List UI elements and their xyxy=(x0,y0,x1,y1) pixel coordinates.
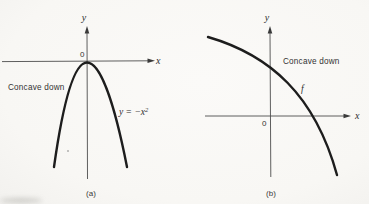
panel-b-y-axis-arrow-icon xyxy=(268,26,273,34)
panel-b-y-axis-label: y xyxy=(264,12,270,23)
panel-a-y-axis xyxy=(87,33,88,180)
panel-b-curve-label-f: f xyxy=(301,84,305,94)
panel-a-x-axis-label: x xyxy=(155,55,161,66)
panel-b-origin-label: 0 xyxy=(262,119,267,128)
panel-b-x-axis-label: x xyxy=(354,110,360,121)
panel-a-y-axis-label: y xyxy=(81,12,87,23)
panel-a-y-axis-arrow-icon xyxy=(85,26,90,34)
scan-speck-artifact xyxy=(67,150,69,152)
figure-canvas: y x 0 Concave down y = −x2 (a) y x 0 Con… xyxy=(0,0,369,204)
panel-a-concave-down-annotation: Concave down xyxy=(8,83,65,92)
panel-a-caption: (a) xyxy=(86,189,96,198)
panel-b: y x 0 Concave down f (b) xyxy=(205,12,360,198)
panel-a-x-axis-arrow-icon xyxy=(148,59,156,64)
panel-b-y-axis xyxy=(270,33,271,178)
panel-b-concave-down-annotation: Concave down xyxy=(283,57,340,66)
scan-smudge-artifact xyxy=(0,198,42,203)
panel-a-origin-label: 0 xyxy=(80,50,85,59)
panel-a-curve-equation-exponent: 2 xyxy=(145,106,149,113)
panel-a: y x 0 Concave down y = −x2 (a) xyxy=(2,12,161,199)
panel-a-curve-equation-base: y = −x xyxy=(118,107,146,117)
panel-a-parabola-curve xyxy=(54,63,127,168)
panel-b-caption: (b) xyxy=(266,189,276,198)
panel-a-x-axis xyxy=(2,61,149,62)
concavity-figure: y x 0 Concave down y = −x2 (a) y x 0 Con… xyxy=(0,0,369,204)
panel-a-curve-equation-label: y = −x2 xyxy=(118,106,149,118)
panel-b-x-axis-arrow-icon xyxy=(344,114,352,119)
